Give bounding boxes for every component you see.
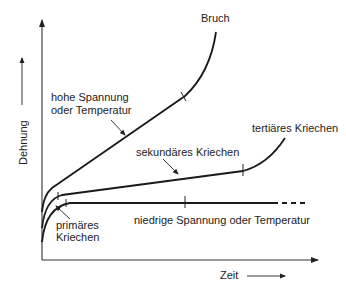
label-sekundaer: sekundäres Kriechen xyxy=(136,146,239,158)
label-primaer-line2: Kriechen xyxy=(56,231,99,243)
label-tertiaer: tertiäres Kriechen xyxy=(252,122,338,134)
pointer-high-icon xyxy=(111,120,125,135)
label-low: niedrige Spannung oder Temperatur xyxy=(134,214,310,226)
label-high-line2: oder Temperatur xyxy=(51,104,132,116)
x-axis-label: Zeit xyxy=(220,269,238,281)
label-high-line1: hohe Spannung xyxy=(51,91,129,103)
label-bruch: Bruch xyxy=(201,12,230,24)
pointer-primaer-icon xyxy=(56,206,70,219)
y-axis-label: Dehnung xyxy=(17,120,29,165)
curve-high-stress xyxy=(42,32,216,212)
label-primaer-line1: primäres xyxy=(56,219,99,231)
pointer-sekundaer-icon xyxy=(163,159,178,174)
y-axis-label-group: Dehnung xyxy=(17,58,29,165)
creep-diagram: Dehnung Zeit Bruch hohe Spannung oder Te… xyxy=(0,0,346,295)
x-axis-label-group: Zeit xyxy=(220,269,285,281)
